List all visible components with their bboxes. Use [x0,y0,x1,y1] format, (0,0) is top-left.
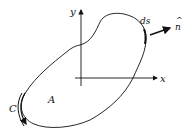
ds-label: ds [140,16,151,26]
ds-arc-segment [144,29,146,44]
y-axis-label: y [69,6,76,17]
curve-label: C [9,103,17,114]
diagram-canvas: y x ds ^ n A C [0,0,192,135]
region-label: A [47,94,55,105]
normal-vector-arrow [150,28,170,35]
x-axis-label: x [160,73,166,84]
closed-curve [21,13,146,127]
normal-label: n [175,22,181,32]
